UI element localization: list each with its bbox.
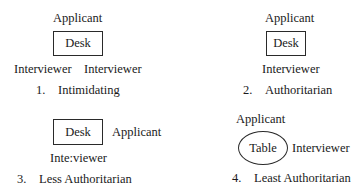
caption: 3.Less Authoritarian (17, 172, 132, 186)
applicant-label: Applicant (53, 11, 102, 25)
desk-label: Desk (65, 36, 91, 51)
interviewer-label: Inte:viewer (50, 151, 107, 165)
interviewer-label: Interviewer (262, 62, 320, 76)
desk-box: Desk (266, 31, 306, 56)
caption: 2.Authoritarian (243, 83, 332, 97)
desk-label: Desk (273, 36, 299, 51)
caption-number: 4. (232, 171, 254, 185)
table-ellipse: Table (238, 131, 288, 165)
caption-text: Least Authoritarian (254, 171, 351, 185)
applicant-label: Applicant (265, 11, 314, 25)
desk-box: Desk (53, 31, 103, 56)
applicant-label: Applicant (236, 112, 285, 126)
caption-number: 1. (36, 83, 58, 97)
applicant-label: Applicant (112, 125, 161, 139)
interviewer-label: Interviewer (84, 62, 142, 76)
interviewer-label: Interviewer (14, 62, 72, 76)
caption: 4.Least Authoritarian (232, 171, 351, 185)
desk-label: Desk (65, 125, 91, 140)
caption: 1.Intimidating (36, 83, 120, 97)
interviewer-label: Interviewer (292, 141, 350, 155)
caption-text: Intimidating (58, 83, 120, 97)
table-label: Table (249, 141, 277, 156)
caption-number: 3. (17, 172, 39, 186)
caption-number: 2. (243, 83, 265, 97)
desk-box: Desk (53, 119, 103, 145)
caption-text: Less Authoritarian (39, 172, 132, 186)
caption-text: Authoritarian (265, 83, 332, 97)
